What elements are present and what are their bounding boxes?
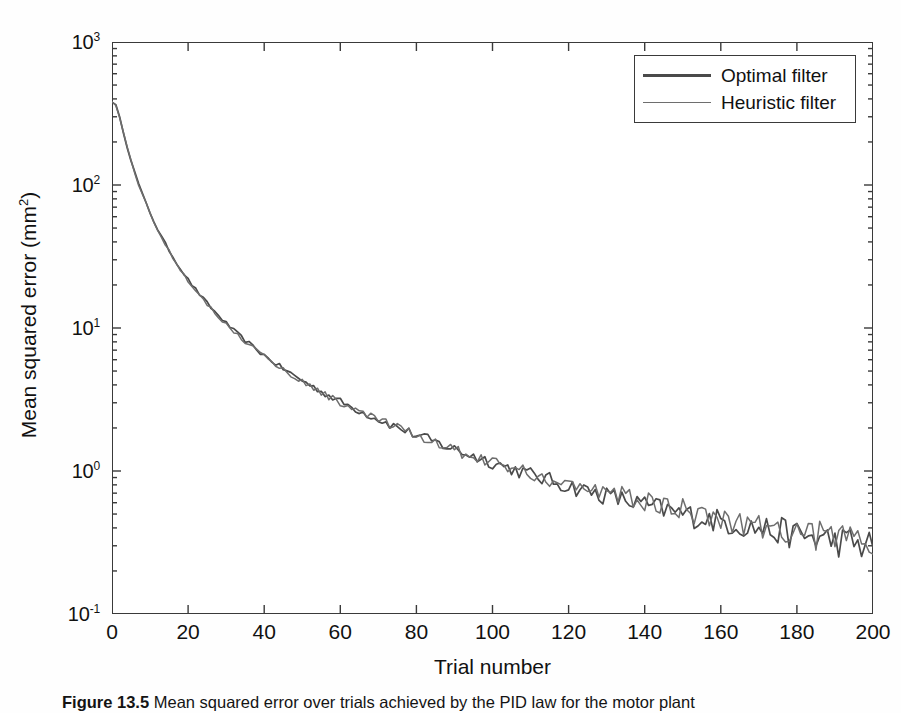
x-tick-label: 160 [703, 620, 738, 644]
legend-swatch-optimal-filter [643, 74, 711, 76]
legend-swatch-heuristic-filter [643, 102, 711, 104]
x-axis-title: Trial number [112, 655, 873, 679]
y-tick-label: 100 [72, 460, 100, 483]
figure-root: 10-1100101102103 Mean squared error (mm2… [0, 0, 901, 713]
x-axis-tick-labels: 020406080100120140160180200 [112, 620, 873, 650]
series-line-optimal-filter [112, 102, 873, 557]
legend: Optimal filter Heuristic filter [634, 55, 856, 123]
x-tick-label: 20 [176, 620, 199, 644]
legend-label-optimal-filter: Optimal filter [721, 65, 828, 87]
y-tick-label: 102 [72, 174, 100, 197]
x-tick-label: 180 [779, 620, 814, 644]
plot-area: Optimal filter Heuristic filter [112, 42, 873, 614]
legend-item-optimal-filter: Optimal filter [643, 62, 847, 89]
plot-canvas [112, 42, 873, 614]
caption-text: Mean squared error over trials achieved … [154, 693, 695, 711]
y-tick-label: 101 [72, 317, 100, 340]
x-tick-label: 80 [405, 620, 428, 644]
legend-item-heuristic-filter: Heuristic filter [643, 89, 847, 116]
y-axis-title: Mean squared error (mm2) [17, 80, 41, 550]
y-tick-label: 103 [72, 31, 100, 54]
legend-label-heuristic-filter: Heuristic filter [721, 92, 836, 114]
x-tick-label: 200 [855, 620, 890, 644]
x-tick-label: 100 [475, 620, 510, 644]
series-line-heuristic-filter [112, 102, 873, 554]
x-tick-label: 60 [329, 620, 352, 644]
x-tick-label: 0 [106, 620, 118, 644]
y-tick-label: 10-1 [68, 603, 100, 626]
figure-caption: Figure 13.5 Mean squared error over tria… [62, 693, 852, 713]
x-tick-label: 140 [627, 620, 662, 644]
x-tick-label: 40 [253, 620, 276, 644]
caption-label: Figure 13.5 [62, 693, 149, 711]
x-tick-label: 120 [551, 620, 586, 644]
